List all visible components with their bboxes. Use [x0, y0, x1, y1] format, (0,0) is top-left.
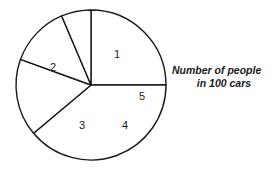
- pie-slice-1: [91, 10, 166, 85]
- pie-slice-label-3: 3: [79, 119, 85, 131]
- pie-slice-group: [16, 10, 166, 160]
- caption-line-2: in 100 cars: [172, 77, 276, 90]
- pie-slice-label-1: 1: [114, 48, 120, 60]
- pie-slice-label-4: 4: [122, 119, 128, 131]
- pie-chart-figure: 12345 Number of people in 100 cars: [0, 0, 278, 171]
- pie-slice-label-5: 5: [139, 90, 145, 102]
- chart-caption: Number of people in 100 cars: [172, 64, 276, 89]
- pie-slice-label-2: 2: [50, 61, 56, 73]
- caption-line-1: Number of people: [172, 64, 276, 77]
